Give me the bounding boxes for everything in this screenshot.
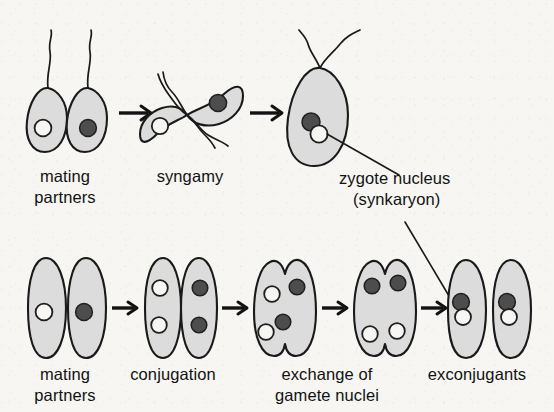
synkaryon-nucleus-light (455, 309, 471, 325)
caption-zygote-nucleus: zygote nucleus(synkaryon) (339, 168, 529, 210)
syngamy-cell-lower (140, 72, 187, 142)
bottom-stage-conjugation (145, 258, 217, 358)
conjugant-cell-left (28, 258, 66, 358)
caption-syngamy: syngamy (140, 166, 240, 187)
caption-line-2: (synkaryon) (339, 189, 440, 210)
caption-line-1: zygote nucleus (339, 169, 450, 187)
caption-bottom-mating-partners: matingpartners (19, 364, 111, 406)
conjugant-pair-outline (254, 260, 316, 356)
nucleus-dark (192, 280, 208, 296)
nucleus-dark (289, 279, 305, 295)
nucleus-light (362, 326, 378, 342)
conjugant-pair-outline (354, 260, 416, 356)
arrow-right-icon (222, 302, 247, 314)
flagellum-icon (299, 30, 320, 68)
exconjugant-cell-right (493, 260, 531, 358)
cell-outline (181, 258, 217, 358)
bottom-row-conjugation-pathway (28, 258, 531, 358)
top-stage-zygote (287, 30, 360, 166)
nucleus-light (35, 120, 52, 137)
top-stage-syngamy (140, 72, 243, 148)
figure-canvas: matingpartners syngamy zygote nucleus(sy… (0, 0, 554, 412)
nucleus-light (152, 118, 168, 134)
arrow-right-icon (112, 302, 137, 314)
arrow-right-icon (322, 302, 347, 314)
caption-exchange-gamete-nuclei: exchange ofgamete nuclei (257, 364, 397, 406)
bottom-stage-exchange (254, 260, 316, 356)
nucleus-dark (275, 314, 291, 330)
nucleus-dark (209, 94, 226, 111)
caption-exconjugants: exconjugants (412, 364, 542, 385)
nucleus-dark (364, 278, 380, 294)
cell-outline (145, 258, 181, 358)
top-row-syngamy-pathway (27, 30, 360, 166)
nucleus-dark (390, 275, 406, 291)
gamete-cell-right (67, 30, 107, 152)
caption-line-2: gamete nuclei (275, 386, 379, 404)
flagellum-icon (48, 30, 52, 88)
nucleus-light (258, 324, 274, 340)
nucleus-dark (76, 304, 93, 321)
flagellum-icon (88, 30, 92, 88)
caption-line-2: partners (34, 188, 95, 206)
caption-line-2: partners (34, 386, 95, 404)
synkaryon-nucleus-dark (453, 294, 470, 311)
caption-top-mating-partners: matingpartners (19, 166, 111, 208)
nucleus-light (152, 280, 168, 296)
caption-line-1: mating (40, 167, 90, 185)
nucleus-light (151, 317, 167, 333)
caption-line-1: exconjugants (428, 365, 526, 383)
nucleus-dark (191, 317, 207, 333)
exconjugant-cell-left (448, 260, 486, 358)
conjugant-cell-right (181, 258, 217, 358)
gamete-cell-left (27, 30, 67, 152)
nucleus-light (264, 286, 280, 302)
nucleus-light (36, 304, 53, 321)
bottom-stage-mating-partners (28, 258, 106, 358)
nucleus-dark (80, 120, 97, 137)
caption-line-1: exchange of (281, 365, 372, 383)
caption-line-1: conjugation (130, 365, 216, 383)
zygote-nucleus-light (310, 125, 327, 142)
bottom-stage-exconjugants (448, 260, 531, 358)
arrow-right-icon (421, 302, 446, 314)
caption-conjugation: conjugation (113, 364, 233, 385)
caption-line-1: syngamy (157, 167, 224, 185)
conjugant-cell-right (68, 258, 106, 358)
synkaryon-nucleus-light (501, 309, 517, 325)
arrow-right-icon (250, 106, 282, 120)
cell-outline (448, 260, 486, 358)
nucleus-light (389, 323, 405, 339)
conjugant-cell-left (145, 258, 181, 358)
flagellum-icon (320, 30, 360, 68)
top-stage-mating-partners (27, 30, 107, 152)
synkaryon-nucleus-dark (499, 294, 516, 311)
caption-line-1: mating (40, 365, 90, 383)
bottom-stage-exchange-complete (354, 260, 416, 356)
